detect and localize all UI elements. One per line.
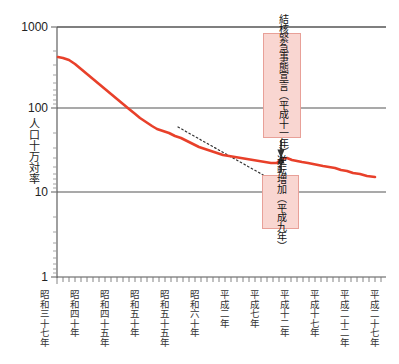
x-tick-label-8: 平成十二年 xyxy=(278,290,289,338)
x-tick-label-0: 昭和三十七年 xyxy=(38,290,49,347)
y-tick-label-1000: 1000 xyxy=(2,20,48,34)
callout-reversal-text: 逆転増加（平成九年） xyxy=(263,176,298,228)
x-tick-label-4: 昭和五十五年 xyxy=(158,290,169,347)
axis-group xyxy=(57,27,386,278)
incidence-line xyxy=(58,57,375,177)
x-tick-label-9: 平成十七年 xyxy=(308,290,319,338)
callout-reversal-increase: 逆転増加（平成九年） xyxy=(262,175,299,229)
callout-emergency-text: 結核緊急事態宣言（平成十一年） xyxy=(264,34,300,137)
x-tick-label-7: 平成七年 xyxy=(248,290,259,328)
tuberculosis-incidence-chart: 1000 100 10 1 人口十万対率 昭和三十七年 昭和四十年 昭和四十五年… xyxy=(0,0,399,364)
x-tick-label-10: 平成二十二年 xyxy=(338,290,349,347)
x-tick-label-11: 平成二十七年 xyxy=(368,290,379,347)
y-tick-label-10: 10 xyxy=(2,185,48,199)
callout-emergency-declaration: 結核緊急事態宣言（平成十一年） xyxy=(263,33,301,138)
x-tick-label-5: 昭和六十年 xyxy=(188,290,199,338)
x-tick-label-2: 昭和四十五年 xyxy=(98,290,109,347)
x-tick-label-3: 昭和五十年 xyxy=(128,290,139,338)
y-tick-marks xyxy=(51,27,57,277)
x-tick-label-6: 平成二年 xyxy=(218,290,229,328)
x-tick-label-1: 昭和四十年 xyxy=(68,290,79,338)
x-tick-marks xyxy=(57,277,381,284)
y-tick-label-100: 100 xyxy=(2,101,48,115)
y-tick-label-1: 1 xyxy=(2,270,48,284)
trend-dotted-line xyxy=(178,127,265,176)
y-axis-title: 人口十万対率 xyxy=(24,118,40,184)
